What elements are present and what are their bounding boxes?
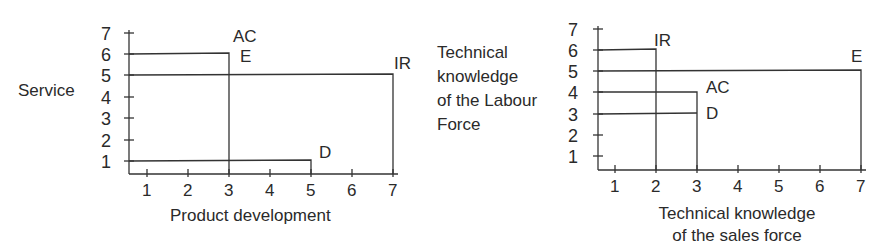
right-label-e: E [851,47,862,66]
right-ytick-5: 5 [568,62,578,82]
left-ytick-5: 5 [101,66,111,86]
right-ytick-7: 7 [568,20,578,40]
left-ytick-4: 4 [101,88,111,108]
svg-text:knowledge: knowledge [437,67,518,86]
right-xtick-1: 1 [610,177,619,196]
left-point-ir-lines [129,74,393,174]
svg-text:of the Labour: of the Labour [437,91,538,110]
left-label-e: E [240,47,251,66]
left-xtick-7: 7 [388,181,397,200]
right-label-ir: IR [654,31,671,50]
left-ytick-6: 6 [101,45,111,65]
left-y-axis-label: Service [18,81,75,100]
right-x-axis-label: Technical knowledge of the sales force [659,204,816,245]
right-point-ir-lines [598,49,656,170]
svg-text:Technical knowledge: Technical knowledge [659,204,816,223]
right-xtick-2: 2 [651,177,660,196]
right-xtick-5: 5 [774,177,783,196]
right-point-d-lines [598,113,697,114]
right-ytick-2: 2 [568,126,578,146]
right-chart [593,26,866,173]
left-x-axis-label: Product development [170,206,331,225]
right-point-ac-lines [598,92,697,170]
right-xtick-6: 6 [815,177,824,196]
left-ytick-2: 2 [101,131,111,151]
left-xtick-5: 5 [306,181,315,200]
right-label-d: D [706,104,718,123]
left-xtick-1: 1 [142,181,151,200]
left-ytick-1: 1 [101,152,111,172]
charts-canvas: 7 6 5 4 3 2 1 1 2 3 4 5 6 7 Service Prod… [0,0,882,251]
left-point-ac-e-lines [129,53,229,174]
right-xtick-4: 4 [733,177,742,196]
right-label-ac: AC [706,78,730,97]
right-ytick-1: 1 [568,147,578,167]
left-point-d-lines [129,160,311,174]
left-ytick-7: 7 [101,24,111,44]
left-label-d: D [319,143,331,162]
left-label-ac: AC [233,27,257,46]
left-xtick-2: 2 [183,181,192,200]
left-chart [124,30,398,177]
left-xtick-4: 4 [265,181,274,200]
left-ytick-3: 3 [101,109,111,129]
right-ytick-3: 3 [568,105,578,125]
right-ytick-4: 4 [568,83,578,103]
right-y-axis-label: Technical knowledge of the Labour Force [437,43,538,134]
svg-text:Force: Force [437,115,480,134]
right-ytick-6: 6 [568,41,578,61]
left-xtick-6: 6 [347,181,356,200]
left-xtick-3: 3 [224,181,233,200]
right-xtick-3: 3 [692,177,701,196]
right-xtick-7: 7 [856,177,865,196]
left-label-ir: IR [394,54,411,73]
svg-text:Technical: Technical [437,43,508,62]
svg-text:of the sales force: of the sales force [672,226,801,245]
